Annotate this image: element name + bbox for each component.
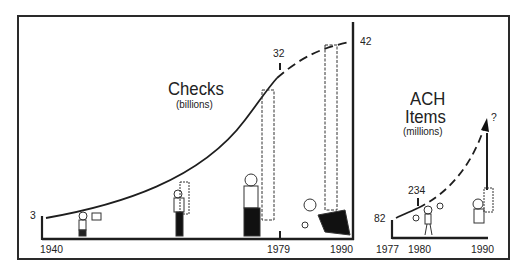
chart-plot-area [0, 0, 527, 275]
ach-1990-value: ? [491, 112, 497, 124]
checks-x-tick-1940: 1940 [40, 244, 63, 256]
ach-x-tick-1990: 1990 [471, 244, 494, 256]
checks-x-tick-1979: 1979 [267, 244, 290, 256]
arrowhead-icon [481, 118, 489, 132]
checks-x-tick-1990: 1990 [330, 244, 353, 256]
checks-1990-value: 42 [360, 36, 372, 48]
figure-stack-tall-icon [244, 90, 274, 236]
ach-1980-value: 234 [408, 185, 425, 197]
figure-small-icon [79, 212, 101, 236]
ach-x-tick-1977: 1977 [376, 244, 399, 256]
checks-cartoon-figures [79, 45, 350, 236]
ach-subtitle: (millions) [403, 126, 443, 137]
ach-curve-dashed [418, 128, 484, 208]
ach-start-value: 82 [374, 213, 386, 225]
checks-subtitle: (billions) [176, 99, 213, 110]
checks-curve-solid [46, 78, 277, 218]
checks-title: Checks [168, 79, 224, 98]
checks-curve-dashed [277, 42, 350, 78]
checks-axes [42, 22, 354, 240]
checks-1979-value: 32 [273, 48, 285, 60]
figure-stack-tallest-icon [302, 45, 350, 235]
checks-start-value: 3 [30, 210, 36, 222]
ach-title-line2: Items [405, 107, 446, 126]
ach-x-tick-1980: 1980 [408, 244, 431, 256]
figure-carrier-icon [473, 188, 493, 223]
figure-stack-medium-icon [174, 182, 189, 236]
ach-curve-solid [396, 208, 418, 218]
